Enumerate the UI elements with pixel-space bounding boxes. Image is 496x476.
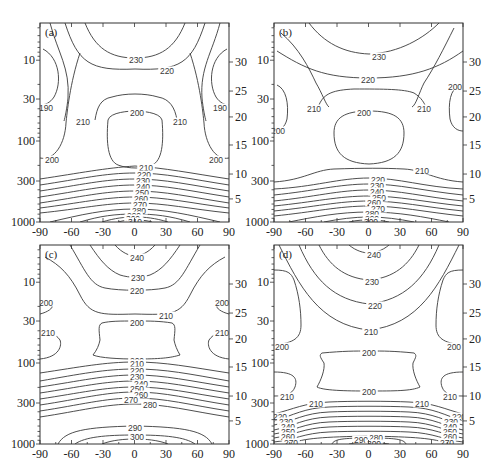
pressure-tick-label: 10 (23, 53, 35, 67)
x-tick-label: 30 (160, 447, 172, 461)
contour-label: 210 (41, 328, 55, 338)
pressure-tick-label: 100 (251, 356, 269, 370)
panel-a: 2302201901902102102002002002102202302402… (11, 23, 247, 239)
contour-label: 200 (45, 155, 59, 165)
pressure-tick-label: 1000 (11, 437, 35, 451)
contour-label: 200 (271, 126, 285, 136)
height-tick-label: 30 (469, 55, 481, 69)
contour-label: 210 (280, 392, 294, 402)
contour-label: 210 (415, 166, 429, 176)
pressure-tick-label: 300 (17, 396, 35, 410)
contour-label: 210 (417, 104, 431, 114)
pressure-tick-label: 30 (257, 314, 269, 328)
contour-200 (274, 270, 301, 345)
panel-c: 2402302202102002002102102002002102202302… (11, 245, 247, 461)
contour-label: 220 (368, 301, 382, 311)
height-tick-label: 25 (469, 84, 481, 98)
contour-label: 270 (284, 438, 298, 448)
contour-label: 210 (307, 104, 321, 114)
contour-label: 200 (447, 342, 461, 352)
contour-label: 210 (364, 327, 378, 337)
x-tick-label: 0 (366, 447, 372, 461)
contour-label: 200 (209, 155, 223, 165)
x-tick-label: -60 (298, 447, 314, 461)
contour-label: 200 (362, 387, 376, 397)
pressure-tick-label: 10 (257, 275, 269, 289)
pressure-tick-label: 30 (257, 92, 269, 106)
height-tick-label: 15 (469, 360, 481, 374)
panel-d: 2402302202102002002002002102102102102202… (245, 245, 481, 461)
height-tick-label: 10 (469, 167, 481, 181)
contour-label: 230 (372, 52, 386, 62)
contour-230 (85, 23, 185, 58)
contour-240 (274, 416, 463, 430)
pressure-tick-label: 100 (251, 134, 269, 148)
x-tick-label: 90 (457, 447, 469, 461)
panel-label: (b) (279, 26, 292, 39)
contour-200 (107, 111, 162, 168)
contour-label: 190 (213, 103, 227, 113)
x-tick-label: 60 (426, 447, 438, 461)
height-tick-label: 15 (235, 138, 247, 152)
contour-230 (309, 23, 439, 54)
contour-label: 210 (309, 399, 323, 409)
height-tick-label: 10 (469, 389, 481, 403)
x-tick-label: 0 (132, 225, 138, 239)
height-tick-label: 10 (235, 389, 247, 403)
height-tick-label: 30 (235, 277, 247, 291)
panel-label: (d) (279, 248, 292, 261)
contour-label: 210 (76, 117, 90, 127)
x-tick-label: 30 (160, 225, 172, 239)
x-tick-label: -30 (95, 225, 111, 239)
contour-lines: 2402302202102002002102102002002102202302… (37, 245, 231, 444)
contour-lines: 2402302202102002002002002102102102102202… (271, 245, 468, 449)
contour-190 (211, 49, 229, 105)
height-tick-label: 5 (469, 414, 475, 428)
contour-label: 200 (275, 342, 289, 352)
contour-figure: 2302201901902102102002002002102202302402… (0, 0, 496, 476)
contour-190 (40, 49, 59, 105)
x-tick-label: 60 (192, 225, 204, 239)
pressure-tick-label: 1000 (245, 215, 269, 229)
x-tick-label: 30 (394, 225, 406, 239)
contour-label: 220 (130, 286, 144, 296)
pressure-tick-label: 10 (23, 275, 35, 289)
pressure-tick-label: 100 (17, 134, 35, 148)
height-tick-label: 10 (235, 167, 247, 181)
contour-label: 220 (361, 75, 375, 85)
height-tick-label: 25 (235, 306, 247, 320)
contour-label: 230 (129, 55, 143, 65)
contour-label: 220 (160, 66, 174, 76)
contour-label: 210 (215, 328, 229, 338)
x-tick-label: -30 (329, 225, 345, 239)
x-tick-label: 60 (426, 225, 438, 239)
contour-label: 210 (415, 399, 429, 409)
pressure-tick-label: 100 (17, 356, 35, 370)
contour-220 (274, 406, 463, 421)
contour-label: 240 (130, 253, 144, 263)
contour-220 (70, 245, 200, 290)
panel-label: (c) (45, 248, 58, 261)
contour-label: 200 (357, 108, 371, 118)
pressure-tick-label: 300 (251, 396, 269, 410)
pressure-tick-label: 30 (23, 92, 35, 106)
height-tick-label: 30 (235, 55, 247, 69)
contour-210 (274, 168, 463, 182)
height-tick-label: 25 (469, 306, 481, 320)
height-tick-label: 20 (469, 110, 481, 124)
pressure-tick-label: 30 (23, 314, 35, 328)
contour-200 (334, 111, 404, 164)
contour-label: 210 (443, 392, 457, 402)
contour-210 (274, 401, 463, 414)
contour-210 (412, 28, 454, 107)
height-tick-label: 5 (469, 192, 475, 206)
pressure-tick-label: 300 (251, 174, 269, 188)
pressure-tick-label: 1000 (11, 215, 35, 229)
height-tick-label: 15 (235, 360, 247, 374)
height-tick-label: 5 (235, 192, 241, 206)
contour-label: 300 (130, 432, 144, 442)
x-tick-label: -60 (64, 447, 80, 461)
height-tick-label: 30 (469, 277, 481, 291)
height-tick-label: 15 (469, 138, 481, 152)
contour-label: 210 (173, 117, 187, 127)
